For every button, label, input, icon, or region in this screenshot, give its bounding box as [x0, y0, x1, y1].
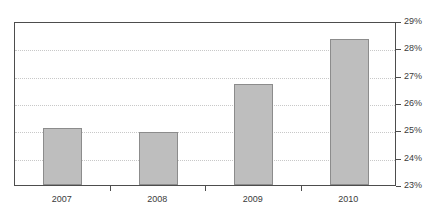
- y-axis-tick: [396, 22, 401, 23]
- y-axis-label: 28%: [404, 44, 422, 53]
- y-axis-tick: [396, 49, 401, 50]
- x-axis-label-2007: 2007: [14, 195, 110, 204]
- x-axis-label-2008: 2008: [110, 195, 206, 204]
- x-axis-tick: [205, 186, 206, 191]
- plot-area: [14, 22, 396, 186]
- y-axis-tick: [396, 186, 401, 187]
- bar-2008[interactable]: [139, 132, 178, 185]
- bar-2007[interactable]: [43, 128, 82, 185]
- bar-2010[interactable]: [330, 39, 369, 185]
- bar-2009[interactable]: [234, 84, 273, 185]
- y-axis-label: 24%: [404, 154, 422, 163]
- y-axis-label: 26%: [404, 99, 422, 108]
- y-axis-tick: [396, 77, 401, 78]
- x-axis-tick: [301, 186, 302, 191]
- x-axis-label-2009: 2009: [205, 195, 301, 204]
- x-axis-tick: [110, 186, 111, 191]
- y-axis-label: 23%: [404, 181, 422, 190]
- y-axis-label: 27%: [404, 72, 422, 81]
- y-axis-label: 25%: [404, 126, 422, 135]
- x-axis-label-2010: 2010: [301, 195, 397, 204]
- bar-chart: 23%24%25%26%27%28%29% 2007200820092010: [0, 0, 435, 215]
- y-axis-label: 29%: [404, 17, 422, 26]
- y-axis-tick: [396, 131, 401, 132]
- y-axis-tick: [396, 104, 401, 105]
- y-axis-tick: [396, 159, 401, 160]
